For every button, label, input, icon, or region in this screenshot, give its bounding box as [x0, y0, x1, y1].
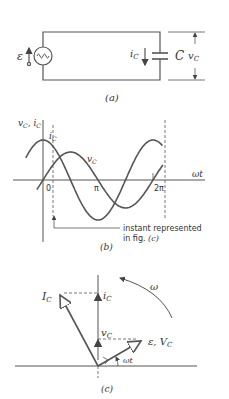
phasor-vc-label: ε, VC [148, 336, 173, 349]
ic-projection-label: iC [103, 290, 112, 303]
phasor-ic-label: IC [41, 290, 52, 304]
panel-a-labels: ε iC C vC (a) [17, 48, 200, 103]
vc-curve-label: vC [87, 154, 97, 165]
angle-label: ωt [123, 356, 134, 365]
tick-2pi: 2π [154, 184, 164, 193]
y-axis-label: vC, iC [18, 118, 41, 129]
annotation-line1: instant represented [123, 224, 202, 233]
wire-top [43, 32, 160, 53]
vc-projection-label: vC [101, 327, 113, 340]
tick-pi: π [94, 184, 99, 193]
x-axis-label: ωt [192, 169, 203, 179]
caption-b: (b) [100, 242, 113, 252]
annotation-line2: in fig. (c) [123, 234, 159, 243]
tick-0: 0 [46, 184, 51, 193]
phasor-ic-arrow [60, 295, 98, 366]
voltage-label: vC [188, 50, 200, 63]
emf-label: ε [17, 50, 23, 63]
phasor-vc-arrow [98, 341, 141, 366]
capacitor-label: C [175, 49, 184, 63]
wire-bottom [43, 59, 160, 80]
caption-c: (c) [101, 384, 114, 394]
rotation-label: ω [150, 281, 158, 292]
caption-a: (a) [105, 92, 119, 103]
current-label: iC [130, 48, 139, 61]
figure-canvas: ε iC C vC (a) vC, iC iC vC ωt 0 π 2π ins… [0, 0, 229, 399]
angle-arc-icon [116, 357, 118, 366]
rotation-arrow-icon [120, 278, 172, 318]
panel-b-labels: vC, iC iC vC ωt 0 π 2π instant represent… [18, 118, 203, 252]
